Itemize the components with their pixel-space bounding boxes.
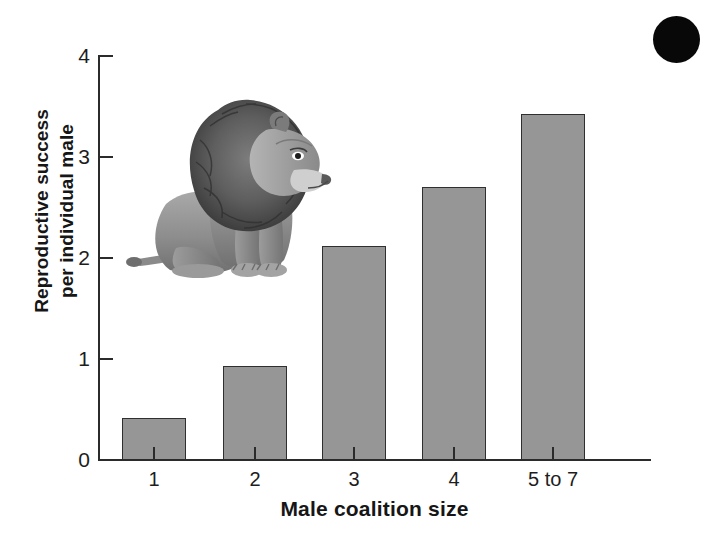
y-tick-label-0: 0 — [50, 449, 90, 470]
y-tick-2 — [100, 257, 113, 259]
x-tick-label-4: 4 — [399, 468, 509, 490]
black-circle-marker — [653, 16, 700, 63]
x-tick-3 — [353, 447, 355, 460]
x-tick-2 — [254, 447, 256, 460]
y-axis-title: Reproductive success per individual male — [29, 61, 79, 361]
bar-4[interactable] — [422, 187, 486, 460]
y-tick-3 — [100, 156, 113, 158]
y-axis-title-line2: per individual male — [56, 124, 77, 298]
chart-figure: 4 3 2 1 0 Reproductive success per indiv… — [0, 0, 710, 544]
lion-illustration — [126, 78, 342, 293]
x-axis-line — [98, 459, 651, 461]
x-axis-title: Male coalition size — [98, 497, 651, 521]
x-tick-label-3: 3 — [299, 468, 409, 490]
y-axis-title-line1: Reproductive success — [31, 109, 52, 313]
y-tick-4 — [100, 55, 113, 57]
x-tick-1 — [153, 447, 155, 460]
x-tick-5-to-7 — [552, 447, 554, 460]
x-tick-label-2: 2 — [200, 468, 310, 490]
x-tick-label-5-to-7: 5 to 7 — [498, 468, 608, 490]
y-tick-1 — [100, 358, 113, 360]
bar-5-to-7[interactable] — [521, 114, 585, 460]
bar-2[interactable] — [223, 366, 287, 460]
x-tick-label-1: 1 — [99, 468, 209, 490]
x-tick-4 — [453, 447, 455, 460]
